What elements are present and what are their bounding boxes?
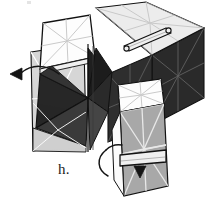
- scan-artifact: [27, 1, 31, 4]
- figure-container: h.: [0, 0, 214, 211]
- step-label: h.: [58, 162, 70, 177]
- origami-step-diagram: [0, 0, 214, 211]
